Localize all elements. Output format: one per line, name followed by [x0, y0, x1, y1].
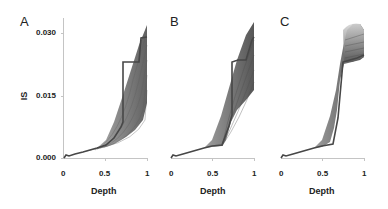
a-x-tick-05: 0.5: [99, 169, 110, 178]
panel-b-ensemble: [171, 22, 254, 158]
panel-label-a: A: [20, 14, 29, 29]
b-x-tick-1: 1: [252, 169, 256, 178]
c-x-tick-05: 0.5: [317, 169, 328, 178]
c-x-tick-0: 0: [279, 169, 283, 178]
b-x-axis-label: Depth: [200, 186, 226, 196]
panel-label-b: B: [170, 14, 179, 29]
c-x-axis-label: Depth: [309, 186, 335, 196]
figure-svg: [0, 0, 388, 209]
a-x-tick-1: 1: [145, 169, 149, 178]
panel-b-axes: [171, 158, 255, 161]
b-x-tick-0: 0: [169, 169, 173, 178]
y-tick-0000: 0.000: [20, 153, 56, 162]
y-tick-0030: 0.030: [20, 28, 56, 37]
panel-c-axes: [281, 158, 365, 161]
panel-a-ensemble: [64, 25, 147, 158]
panel-c-ensemble: [281, 24, 364, 158]
b-x-tick-05: 0.5: [207, 169, 218, 178]
panel-label-c: C: [280, 14, 289, 29]
a-x-tick-0: 0: [61, 169, 65, 178]
a-x-axis-label: Depth: [91, 186, 117, 196]
y-axis-label: IS: [19, 92, 29, 101]
c-x-tick-1: 1: [362, 169, 366, 178]
